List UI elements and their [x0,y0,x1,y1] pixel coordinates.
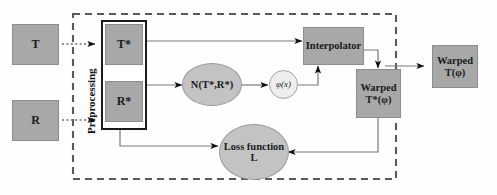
warped-output-label-line1: Warped [437,55,473,66]
node-warped-star[interactable]: Warped T*(φ) [356,69,401,118]
node-reference-input[interactable]: R [12,100,59,141]
group-label-line1: Preprocessing [85,68,97,134]
reference-input-label: R [31,114,40,127]
warped-star-label-line2: T*(φ) [366,94,392,105]
loss-label-line1: Loss function [224,141,284,152]
edge-warped-star-to-loss [288,118,378,152]
group-label-preprocessing: Preprocessing [85,68,97,134]
network-label: N(T*,R*) [191,79,233,90]
template-star-label: T* [117,38,131,51]
node-warped-output[interactable]: Warped T(φ) [432,45,478,88]
node-reference-star[interactable]: R* [105,81,143,122]
reference-star-label: R* [117,95,132,108]
loss-label-line2: L [250,152,257,163]
node-network[interactable]: N(T*,R*) [182,63,242,106]
diagram-canvas: T R Preprocessing by RKHS T* R* N(T*,R*)… [0,0,497,195]
node-phi[interactable]: φ(x) [269,70,298,99]
edge-phi-to-interpolator [296,66,318,85]
warped-output-label-line2: T(φ) [445,67,466,78]
template-input-label: T [31,38,39,51]
interpolator-label: Interpolator [306,40,361,51]
node-loss-function[interactable]: Loss function L [219,124,289,180]
edge-interpolator-to-warped-star [364,50,378,68]
node-interpolator[interactable]: Interpolator [303,27,364,65]
node-template-star[interactable]: T* [105,24,143,65]
phi-label: φ(x) [276,80,291,90]
warped-star-label-line1: Warped [360,82,396,93]
node-template-input[interactable]: T [12,24,59,65]
